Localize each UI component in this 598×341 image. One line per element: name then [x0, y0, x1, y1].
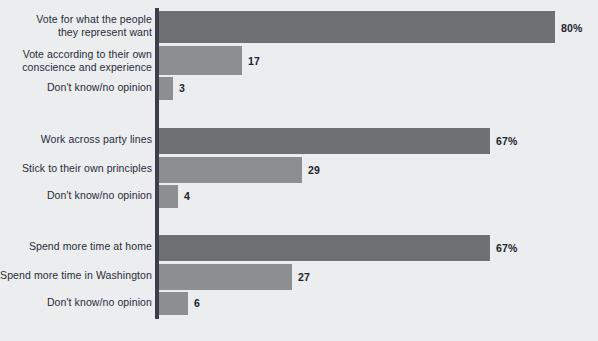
bar: [158, 128, 490, 154]
bar: [158, 185, 178, 208]
bar: [158, 77, 173, 100]
bar-row-label-line: Spend more time in Washington: [0, 269, 152, 282]
bar-row-label-line: Work across party lines: [0, 133, 152, 146]
bar-row-label: Don't know/no opinion: [0, 189, 152, 202]
bar-row-label-line: Spend more time at home: [0, 240, 152, 253]
bar-row-label-line: Don't know/no opinion: [0, 296, 152, 309]
bar-row-label-line: conscience and experience: [0, 61, 152, 74]
bar: [158, 292, 188, 315]
bar-value-label: 80%: [561, 22, 583, 34]
bar-value-label: 4: [184, 190, 190, 202]
bar-row-label-line: Stick to their own principles: [0, 162, 152, 175]
bar-row-label: Work across party lines: [0, 133, 152, 146]
bar-row-label-line: Vote according to their own: [0, 48, 152, 61]
bar-row-label: Don't know/no opinion: [0, 81, 152, 94]
bar-value-label: 67%: [496, 242, 518, 254]
bar-row-label: Stick to their own principles: [0, 162, 152, 175]
bar-value-label: 6: [194, 297, 200, 309]
bar-value-label: 67%: [496, 135, 518, 147]
bar-row-label: Spend more time at home: [0, 240, 152, 253]
bar-row-label-line: Don't know/no opinion: [0, 189, 152, 202]
bar: [158, 264, 292, 290]
vertical-axis-line: [155, 8, 159, 319]
bar-row-label: Spend more time in Washington: [0, 269, 152, 282]
bar-chart: Vote for what the people they represent …: [0, 0, 598, 341]
bar-value-label: 27: [298, 271, 310, 283]
bar-row-label-line: Don't know/no opinion: [0, 81, 152, 94]
bar: [158, 46, 242, 75]
bar-row-label: Vote according to their own conscience a…: [0, 48, 152, 74]
bar-value-label: 17: [248, 55, 260, 67]
bar: [158, 157, 302, 183]
bar-row-label-line: they represent want: [0, 26, 152, 39]
bar-row-label: Vote for what the people they represent …: [0, 13, 152, 39]
bar-row-label-line: Vote for what the people: [0, 13, 152, 26]
bar: [158, 11, 555, 43]
bar-value-label: 3: [179, 82, 185, 94]
bar-row-label: Don't know/no opinion: [0, 296, 152, 309]
bar-value-label: 29: [308, 164, 320, 176]
bar: [158, 235, 490, 261]
